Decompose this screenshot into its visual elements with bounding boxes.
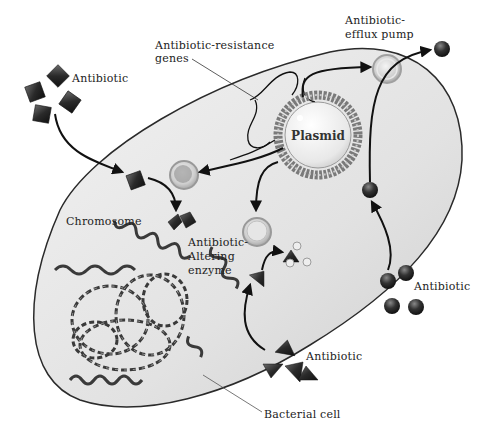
enzyme-protein xyxy=(170,161,198,189)
resistance-genes-label-line2: genes xyxy=(155,52,189,65)
antibiotic-label-right: Antibiotic xyxy=(413,280,470,293)
enzyme-label-line1: Antibiotic- xyxy=(187,236,248,249)
enzyme-label-line3: enzyme xyxy=(188,264,232,277)
diagram-canvas: Plasmid Antibiotic Antibiotic xyxy=(0,0,481,438)
enzyme-label-line2: Altering xyxy=(187,250,235,263)
resistance-genes-label-line1: Antibiotic-resistance xyxy=(154,39,274,52)
efflux-pump-label-line2: efflux pump xyxy=(345,28,414,41)
antibiotic-sphere-expelled xyxy=(434,41,450,57)
chromosome-label: Chromosome xyxy=(66,215,142,228)
efflux-pump-label-line1: Antibiotic- xyxy=(344,14,405,27)
bacterial-cell-label: Bacterial cell xyxy=(264,408,341,421)
antibiotic-label-top-left: Antibiotic xyxy=(71,72,128,85)
diagram-svg: Plasmid Antibiotic Antibiotic xyxy=(0,0,481,438)
antibiotic-label-bottom: Antibiotic xyxy=(305,350,362,363)
plasmid-label: Plasmid xyxy=(291,129,345,143)
efflux-pump xyxy=(373,55,401,83)
antibiotic-sphere-inside xyxy=(362,182,378,198)
